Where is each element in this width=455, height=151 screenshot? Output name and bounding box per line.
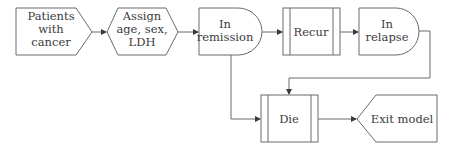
node-recur: Recur: [283, 8, 340, 55]
node-label: Die: [279, 112, 299, 126]
edge-remission-to-die: [231, 55, 260, 119]
flowchart-canvas: Patients with cancer Assign age, sex, LD…: [0, 0, 455, 151]
node-label-line: age, sex,: [116, 22, 167, 36]
node-label-line: remission: [197, 30, 254, 44]
node-assign-age-sex-ldh: Assign age, sex, LDH: [107, 8, 178, 55]
node-label-line: In: [381, 17, 394, 31]
node-label-line: LDH: [129, 35, 156, 49]
node-label-line: with: [38, 22, 64, 36]
node-label-line: Patients: [27, 9, 74, 23]
node-label-line: relapse: [366, 30, 409, 44]
node-die: Die: [261, 95, 318, 142]
node-exit-model: Exit model: [357, 95, 437, 142]
node-in-remission: In remission: [197, 8, 262, 55]
node-label-line: In: [219, 17, 232, 31]
node-in-relapse: In relapse: [359, 8, 419, 55]
node-label: Exit model: [371, 112, 434, 126]
node-patients-with-cancer: Patients with cancer: [16, 8, 92, 55]
node-label-line: Assign: [122, 9, 162, 23]
node-label: Recur: [294, 25, 329, 39]
node-label-line: cancer: [31, 35, 71, 49]
